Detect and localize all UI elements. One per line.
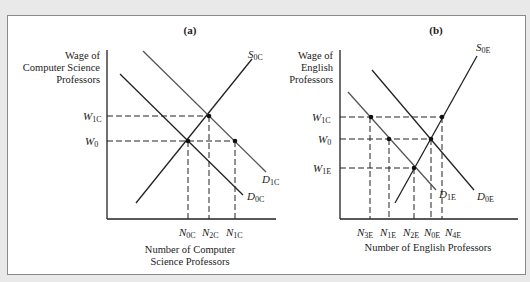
panel-b-label: (b)	[429, 24, 443, 37]
qty-tick-n2c: N2C	[201, 226, 219, 240]
qty-tick-n3e: N3E	[356, 226, 373, 240]
equilibrium-point	[429, 137, 434, 142]
demand-curve-d1e	[348, 92, 436, 190]
qty-tick-n1e: N1E	[379, 226, 396, 240]
wage-tick-w0: W0	[85, 135, 98, 149]
x-axis-label-line2: Science Professors	[150, 256, 229, 267]
figure-canvas: (a) Wage of Computer Science Professors …	[0, 0, 530, 282]
equilibrium-point	[440, 115, 445, 120]
y-axis-label-line1: Wage of	[65, 50, 101, 61]
wage-tick-w1e: W1E	[313, 162, 331, 176]
wage-tick-w1c: W1C	[312, 111, 331, 125]
curve-label-d0e: D0E	[476, 190, 494, 204]
qty-tick-n2e: N2E	[402, 226, 419, 240]
curve-label-s0e: S0E	[476, 41, 491, 55]
curve-label-d1e: D1E	[438, 188, 456, 202]
y-axis-label-line3: Professors	[289, 74, 333, 85]
qty-tick-n1c: N1C	[225, 226, 243, 240]
equilibrium-point	[186, 139, 191, 144]
qty-tick-n0e: N0E	[423, 226, 440, 240]
y-axis-label-line1: Wage of	[298, 50, 334, 61]
guide-lines	[340, 117, 442, 219]
equilibrium-point	[387, 137, 392, 142]
equilibrium-point	[369, 115, 374, 120]
curve-label-d0c: D0C	[246, 190, 264, 204]
wage-tick-w1c: W1C	[83, 110, 102, 124]
equilibrium-point	[233, 139, 238, 144]
y-axis-label-line2: English	[301, 62, 334, 73]
demand-curve-d1c	[143, 51, 266, 172]
x-axis-label-line1: Number of Computer	[145, 244, 236, 255]
equilibrium-point	[412, 166, 417, 171]
supply-curve-s0e	[395, 56, 477, 203]
qty-tick-n4e: N4E	[444, 226, 461, 240]
panel-a-label: (a)	[184, 24, 197, 37]
qty-tick-n0c: N0C	[178, 226, 196, 240]
curve-label-d1c: D1C	[261, 173, 279, 187]
panel-a: (a) Wage of Computer Science Professors …	[23, 24, 280, 267]
wage-tick-w0: W0	[318, 133, 331, 147]
x-axis-label: Number of English Professors	[365, 242, 492, 253]
panel-b: (b) Wage of English Professors W1C W0 W1…	[289, 24, 518, 253]
equilibrium-point	[207, 114, 212, 119]
curve-label-s0c: S0C	[248, 48, 263, 62]
y-axis-label-line2: Computer Science	[23, 62, 101, 73]
y-axis-label-line3: Professors	[56, 74, 100, 85]
